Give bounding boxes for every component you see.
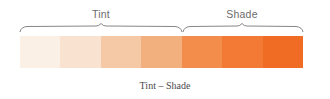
swatch-shade-3 xyxy=(263,36,303,68)
swatch-tint-4 xyxy=(141,36,181,68)
figure-caption: Tint – Shade xyxy=(140,80,191,91)
swatch-shade-1 xyxy=(182,36,222,68)
group-braces xyxy=(0,0,330,40)
swatch-tint-1 xyxy=(20,36,60,68)
swatch-tint-3 xyxy=(101,36,141,68)
tint-brace xyxy=(20,24,182,33)
swatch-tint-2 xyxy=(60,36,100,68)
tint-shade-strip xyxy=(20,36,303,68)
swatch-shade-2 xyxy=(222,36,262,68)
shade-brace xyxy=(183,24,303,33)
